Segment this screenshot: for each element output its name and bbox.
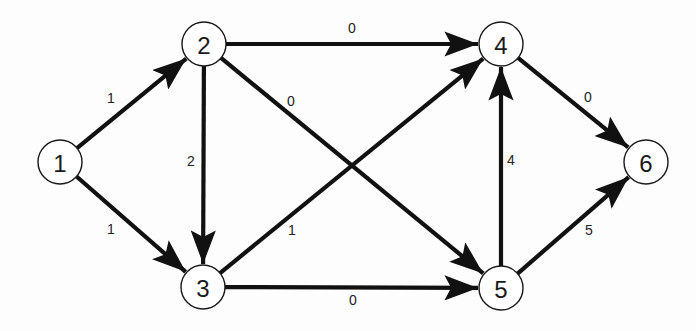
edge-weight-5-4: 4: [507, 152, 515, 168]
edge-weight-3-5: 0: [349, 292, 357, 308]
graph-canvas: 1120010405 123456: [0, 0, 696, 331]
node-2: 2: [182, 22, 226, 66]
edge-weight-2-4: 0: [348, 20, 356, 36]
node-label: 5: [494, 276, 507, 303]
node-5: 5: [479, 266, 523, 310]
edges-layer: [77, 44, 629, 288]
edge-weight-1-3: 1: [107, 221, 115, 237]
edge-weight-5-6: 5: [585, 222, 593, 238]
edge-weight-3-4: 1: [288, 222, 296, 238]
node-label: 2: [197, 32, 210, 59]
edge-weight-4-6: 0: [584, 89, 592, 105]
edge-2-to-3: [203, 66, 204, 264]
node-label: 3: [196, 275, 209, 302]
edge-4-to-6: [518, 58, 628, 148]
node-label: 1: [53, 150, 66, 177]
edge-weight-2-3: 2: [187, 153, 195, 169]
node-label: 4: [494, 32, 507, 59]
node-3: 3: [181, 265, 225, 309]
edge-5-to-6: [518, 177, 629, 273]
node-4: 4: [479, 22, 523, 66]
edge-1-to-3: [77, 176, 186, 271]
node-label: 6: [639, 150, 652, 177]
node-6: 6: [624, 140, 668, 184]
edge-3-to-5: [225, 287, 478, 288]
edge-1-to-2: [77, 59, 186, 148]
edge-weight-1-2: 1: [107, 90, 115, 106]
edge-weight-2-5: 0: [287, 93, 295, 109]
node-1: 1: [38, 140, 82, 184]
